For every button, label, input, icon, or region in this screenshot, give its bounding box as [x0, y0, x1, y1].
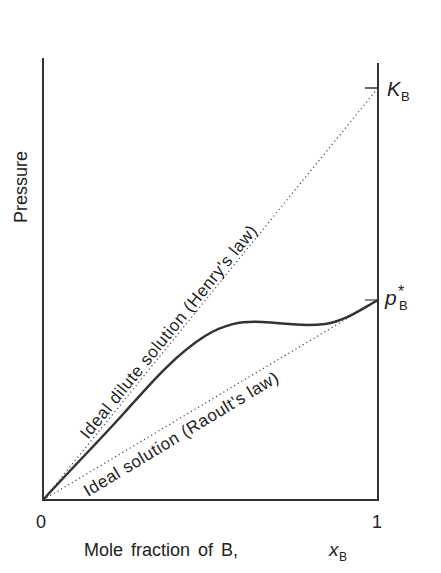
chart: Ideal dilute solution (Henry's law) Idea…	[0, 0, 441, 573]
svg-text:B: B	[339, 550, 347, 564]
svg-text:*: *	[398, 283, 404, 300]
y-axis-label: Pressure	[11, 151, 31, 223]
x-tick-0: 0	[36, 512, 46, 532]
x-tick-1: 1	[372, 512, 382, 532]
x-axis-label: Mole fraction of B, x B	[84, 539, 347, 564]
svg-text:Mole fraction of B,: Mole fraction of B,	[84, 540, 238, 560]
svg-text:K: K	[387, 78, 402, 100]
svg-text:B: B	[399, 298, 408, 313]
real-solution-curve	[43, 300, 378, 500]
kb-label: K B	[387, 78, 410, 104]
pb-star-label: p B *	[384, 283, 408, 313]
raoult-law-line	[43, 300, 378, 500]
svg-text:p: p	[384, 286, 397, 309]
svg-text:B: B	[401, 89, 410, 104]
